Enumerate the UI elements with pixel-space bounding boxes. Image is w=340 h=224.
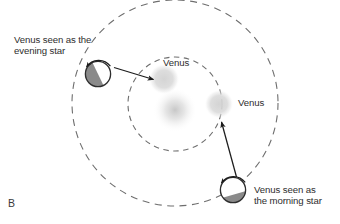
sightline-evening-arrow xyxy=(114,68,154,80)
label-evening-star: Venus seen as the evening star xyxy=(14,34,91,57)
venus-orbit-figure: Venus seen as the evening star Venus see… xyxy=(0,0,340,224)
label-morning-star: Venus seen as the morning star xyxy=(254,184,322,207)
panel-label: B xyxy=(8,198,15,209)
sun xyxy=(153,88,197,132)
label-venus-right: Venus xyxy=(238,97,264,108)
venus-right-disk xyxy=(205,90,234,119)
sightline-morning-arrow xyxy=(222,122,237,177)
label-venus-upper: Venus xyxy=(163,57,189,68)
